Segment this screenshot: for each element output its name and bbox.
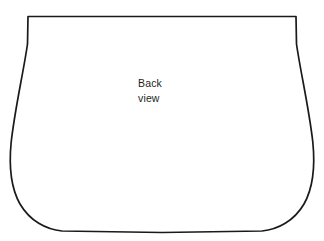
pattern-outline-svg [0, 0, 324, 241]
back-view-label: Back view [138, 76, 162, 106]
bag-back-panel-outline-path [10, 17, 313, 233]
pattern-template-canvas: Back view [0, 0, 324, 241]
back-view-label-line-2: view [138, 91, 162, 106]
back-view-label-line-1: Back [138, 76, 162, 91]
